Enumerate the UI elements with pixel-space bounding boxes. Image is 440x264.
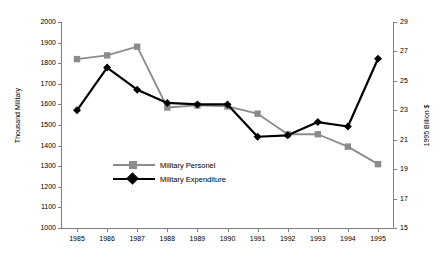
legend-item-expenditure[interactable]: Military Expenditure <box>113 172 233 186</box>
data-point-personnel[interactable] <box>345 143 351 149</box>
data-point-personnel[interactable] <box>134 44 140 50</box>
data-point-personnel[interactable] <box>254 110 260 116</box>
legend-label-personnel: Military Personel <box>155 161 215 170</box>
legend-label-expenditure: Military Expenditure <box>155 175 226 184</box>
data-point-expenditure[interactable] <box>374 55 382 63</box>
data-point-personnel[interactable] <box>104 52 110 58</box>
legend-swatch-square-icon <box>113 159 155 171</box>
chart-legend: Military Personel Military Expenditure <box>113 158 233 186</box>
data-point-personnel[interactable] <box>315 131 321 137</box>
plot-area <box>0 0 440 264</box>
legend-swatch-diamond-icon <box>113 173 155 185</box>
series-line-expenditure <box>77 59 378 137</box>
data-point-expenditure[interactable] <box>344 122 352 130</box>
chart-container: 1000110012001300140015001600170018001900… <box>0 0 440 264</box>
data-point-personnel[interactable] <box>74 56 80 62</box>
legend-item-personnel[interactable]: Military Personel <box>113 158 233 172</box>
data-point-expenditure[interactable] <box>314 118 322 126</box>
data-point-personnel[interactable] <box>375 161 381 167</box>
